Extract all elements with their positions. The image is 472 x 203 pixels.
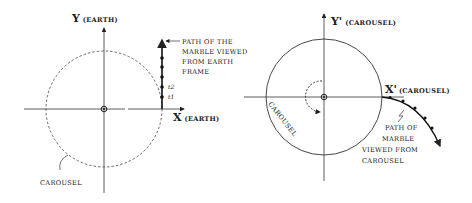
carousel-label-curved: CAROUSEL: [266, 100, 298, 138]
x-axis-letter: X: [173, 111, 182, 124]
path-annotation-line2: MARBLE VIEWED: [182, 48, 248, 56]
y-axis-frame: (EARTH): [83, 16, 118, 24]
svg-text:X'(CAROUSEL): X'(CAROUSEL): [385, 83, 450, 96]
annotation-pointer: [398, 110, 404, 122]
time-label-t1: t1: [168, 93, 174, 100]
rotation-arrow-icon: [305, 81, 322, 112]
svg-text:X(EARTH): X(EARTH): [173, 111, 220, 124]
y-prime-frame: (CAROUSEL): [345, 19, 396, 27]
path-annotation-r1: PATH OF: [385, 124, 418, 132]
carousel-label-earth: CAROUSEL: [40, 179, 82, 187]
svg-text:Y'(CAROUSEL): Y'(CAROUSEL): [330, 15, 396, 28]
time-label-t2: t2: [168, 83, 174, 90]
x-prime-letter: X': [385, 83, 397, 96]
x-axis-frame: (EARTH): [185, 115, 220, 123]
path-annotation-line3: FROM EARTH: [182, 58, 233, 66]
carousel-frame-diagram: Y'(CAROUSEL) X'(CAROUSEL) CAROUSEL PATH …: [244, 14, 450, 181]
x-prime-frame: (CAROUSEL): [399, 87, 450, 95]
y-axis-letter: Y: [71, 12, 80, 25]
path-annotation-r2: MARBLE: [382, 135, 414, 143]
diagram-canvas: Y(EARTH) X(EARTH) CAROUSEL PATH OF THE M…: [0, 0, 472, 203]
carousel-pointer: [60, 155, 68, 170]
path-annotation-r4: CAROUSEL: [362, 157, 404, 165]
earth-frame-diagram: Y(EARTH) X(EARTH) CAROUSEL PATH OF THE M…: [24, 12, 248, 193]
path-annotation-line1: PATH OF THE: [182, 38, 233, 46]
y-prime-letter: Y': [330, 15, 342, 28]
path-annotation-r3: VIEWED FROM: [361, 146, 418, 154]
path-annotation-line4: FRAME: [182, 68, 209, 76]
svg-text:Y(EARTH): Y(EARTH): [71, 12, 118, 25]
